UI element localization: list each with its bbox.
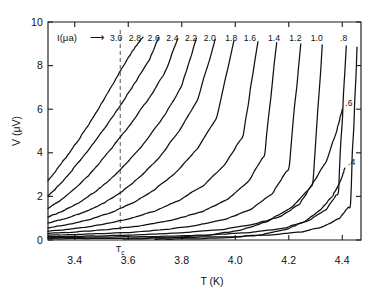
curve-current-label: 1.6 bbox=[244, 33, 256, 43]
curve-current-label: .4 bbox=[348, 157, 355, 167]
x-tick-label: 3.6 bbox=[121, 254, 136, 266]
x-tick-label: 4.2 bbox=[281, 254, 296, 266]
legend-arrow-icon: ⟶ bbox=[90, 32, 104, 43]
curve-current-label: 3.0 bbox=[110, 33, 122, 43]
y-tick-label: 4 bbox=[37, 146, 43, 158]
y-tick-label: 0 bbox=[37, 234, 43, 246]
y-tick-label: 2 bbox=[37, 190, 43, 202]
y-tick-label: 8 bbox=[37, 59, 43, 71]
curve-current-label: 1.4 bbox=[268, 33, 280, 43]
curve-current-label: 1.2 bbox=[289, 33, 301, 43]
chart-background bbox=[0, 0, 380, 292]
current-legend-label: I(μa) bbox=[57, 32, 77, 43]
x-tick-label: 3.4 bbox=[67, 254, 82, 266]
y-axis-title: V (μV) bbox=[10, 116, 22, 146]
x-tick-label: 4.4 bbox=[335, 254, 350, 266]
x-axis-title: T (K) bbox=[200, 275, 223, 287]
curve-current-label: 2.4 bbox=[166, 33, 178, 43]
y-tick-label: 6 bbox=[37, 103, 43, 115]
curve-current-label: 2.2 bbox=[185, 33, 197, 43]
curve-current-label: .8 bbox=[340, 33, 347, 43]
curve-current-label: 2.6 bbox=[148, 33, 160, 43]
curve-current-label: 1.8 bbox=[225, 33, 237, 43]
curve-current-label: 2.0 bbox=[204, 33, 216, 43]
y-tick-label: 10 bbox=[31, 16, 43, 28]
curve-current-label: 2.8 bbox=[129, 33, 141, 43]
x-tick-label: 3.8 bbox=[174, 254, 189, 266]
vt-transition-chart: Tc 3.02.82.62.42.22.01.81.61.41.21.0.8.6… bbox=[0, 0, 380, 292]
curve-current-label: 1.0 bbox=[311, 33, 323, 43]
x-tick-label: 4.0 bbox=[228, 254, 243, 266]
curve-current-label: .6 bbox=[345, 98, 352, 108]
chart-figure: Tc 3.02.82.62.42.22.01.81.61.41.21.0.8.6… bbox=[0, 0, 380, 292]
